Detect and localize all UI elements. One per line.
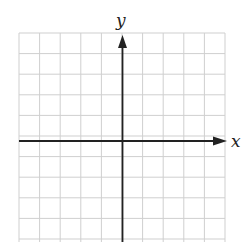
y-axis-label: y (115, 10, 126, 30)
coordinate-plane: x y (0, 0, 243, 242)
x-axis-label: x (231, 131, 241, 151)
y-axis-arrowhead-icon (118, 35, 127, 48)
